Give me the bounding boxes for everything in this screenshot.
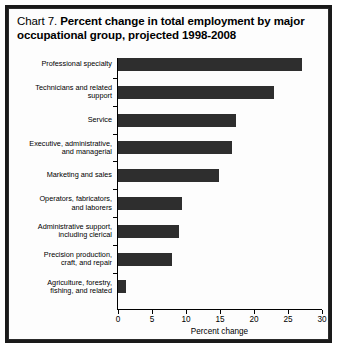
x-axis-tick [152,310,153,314]
bar-category-label: Service [12,116,112,124]
x-axis-tick [254,310,255,314]
x-axis-tick [288,310,289,314]
bar-row: Administrative support,including clerica… [9,225,334,251]
bar-category-label: Operators, fabricators,and laborers [12,195,112,212]
y-axis-tick [113,106,118,107]
y-axis-tick [113,189,118,190]
bar [118,225,179,238]
bar-category-label: Marketing and sales [12,171,112,179]
bar-category-label: Agriculture, forestry,fishing, and relat… [12,279,112,296]
chart-title-prefix: Chart 7. [17,15,57,27]
x-axis-tick [220,310,221,314]
x-axis-tick-label: 0 [106,315,130,324]
x-axis-tick [322,310,323,314]
bar-row: Service [9,114,334,140]
x-axis-tick-label: 15 [208,315,232,324]
x-axis-tick-label: 30 [310,315,334,324]
bar [118,86,274,99]
y-axis-tick [113,161,118,162]
y-axis-tick [113,217,118,218]
chart-title: Chart 7. Percent change in total employm… [17,14,327,42]
x-axis-tick [186,310,187,314]
plot-area: Professional specialtyTechnicians and re… [9,56,334,344]
y-axis-tick [113,273,118,274]
bar-row: Executive, administrative,and managerial [9,141,334,167]
bar [118,280,126,293]
x-axis-tick-label: 25 [276,315,300,324]
x-axis-tick-label: 10 [174,315,198,324]
y-axis-tick [113,78,118,79]
bar [118,114,236,127]
chart-title-main: Percent change in total employment by ma… [17,15,305,41]
y-axis-tick [113,134,118,135]
bar [118,58,302,71]
bar-category-label: Technicians and relatedsupport [12,84,112,101]
bar [118,169,219,182]
bar-category-label: Administrative support,including clerica… [12,223,112,240]
bar-row: Precision production,craft, and repair [9,253,334,279]
bar [118,141,232,154]
bar-row: Agriculture, forestry,fishing, and relat… [9,280,334,306]
bar-row: Professional specialty [9,58,334,84]
bar [118,253,172,266]
bar-row: Operators, fabricators,and laborers [9,197,334,223]
y-axis-tick [113,245,118,246]
x-axis-title: Percent change [117,327,322,336]
x-axis-tick-label: 20 [242,315,266,324]
chart-frame: Chart 7. Percent change in total employm… [5,5,332,343]
bar-row: Marketing and sales [9,169,334,195]
x-axis-tick-label: 5 [140,315,164,324]
bar-category-label: Precision production,craft, and repair [12,251,112,268]
bar [118,197,182,210]
chart-inner-border: Chart 7. Percent change in total employm… [8,8,329,340]
bar-category-label: Professional specialty [12,60,112,68]
x-axis-tick [118,310,119,314]
bar-row: Technicians and relatedsupport [9,86,334,112]
bar-category-label: Executive, administrative,and managerial [12,140,112,157]
